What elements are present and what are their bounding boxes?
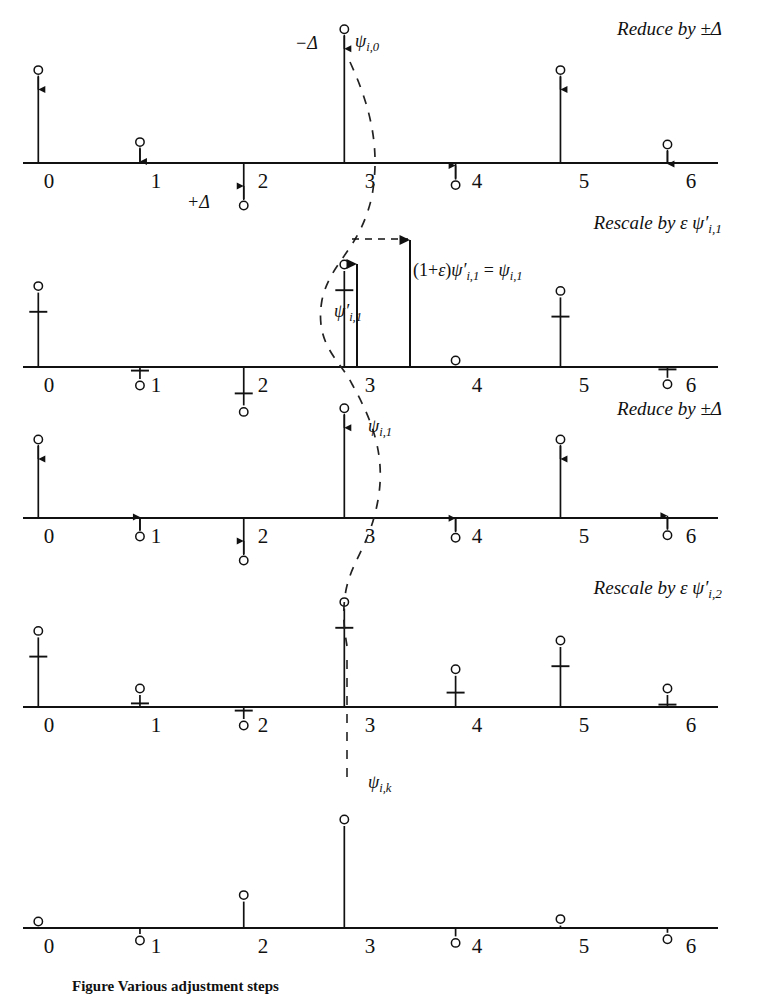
value-marker [340, 815, 348, 823]
stem-plot-canvas: 01234560123456012345601234560123456 [0, 0, 758, 1000]
axis-tick-label-3: 3 [365, 934, 376, 958]
value-marker [340, 404, 348, 412]
axis-tick-label-4: 4 [472, 524, 483, 548]
axis-tick-label-4: 4 [472, 373, 483, 397]
stem-5 [551, 287, 569, 367]
stem-0 [29, 282, 47, 367]
value-marker [663, 140, 671, 148]
axis-tick-label-4: 4 [472, 713, 483, 737]
stem-5 [556, 435, 564, 518]
panel-2-reduced-rescale: 0123456 [23, 260, 718, 416]
axis-tick-label-6: 6 [686, 524, 697, 548]
value-marker [451, 939, 459, 947]
axis-tick-label-3: 3 [365, 713, 376, 737]
stem-1 [136, 928, 144, 945]
axis-tick-label-6: 6 [686, 169, 697, 193]
value-marker [556, 287, 564, 295]
axis-tick-label-3: 3 [365, 524, 376, 548]
axis-tick-label-6: 6 [686, 934, 697, 958]
stem-6 [663, 928, 671, 944]
value-marker [663, 935, 671, 943]
psi-i-k-label: ψi,k [368, 772, 391, 796]
axis-tick-label-2: 2 [258, 713, 269, 737]
stem-6 [658, 684, 676, 707]
stem-0 [34, 66, 42, 163]
stem-1 [136, 138, 144, 163]
stem-6 [663, 140, 671, 164]
axis-tick-label-0: 0 [44, 934, 55, 958]
value-marker [451, 534, 459, 542]
value-marker [34, 282, 42, 290]
stem-0 [34, 917, 42, 925]
value-marker [451, 356, 459, 364]
stem-6 [663, 516, 671, 540]
rescale-equation-label: (1+ε)ψ′i,1 = ψi,1 [413, 260, 523, 284]
axis-tick-label-5: 5 [579, 934, 590, 958]
axis-tick-label-0: 0 [44, 524, 55, 548]
stem-2 [240, 163, 248, 210]
axis-tick-label-1: 1 [151, 934, 162, 958]
value-marker [34, 917, 42, 925]
stem-2 [240, 518, 248, 565]
operation-label-3: Reduce by ±Δ [617, 398, 722, 420]
operation-label-4: Rescale by ε ψ′i,2 [594, 577, 722, 602]
axis-tick-label-6: 6 [686, 373, 697, 397]
axis-tick-label-5: 5 [579, 373, 590, 397]
figure-caption: Figure Various adjustment steps [72, 978, 692, 995]
value-marker [556, 66, 564, 74]
axis-tick-label-4: 4 [472, 169, 483, 193]
stem-0 [34, 435, 42, 518]
plus-delta-label: +Δ [187, 192, 210, 213]
stem-2 [240, 891, 248, 928]
axis-tick-label-5: 5 [579, 713, 590, 737]
stem-3 [340, 815, 348, 928]
stem-1 [136, 517, 144, 541]
axis-tick-label-5: 5 [579, 524, 590, 548]
stem-3 [340, 25, 348, 163]
stem-5 [556, 66, 564, 163]
axis-tick-label-5: 5 [579, 169, 590, 193]
axis-tick-label-1: 1 [151, 713, 162, 737]
psi-prime-i-2-op: ψ′i,2 [692, 577, 722, 598]
value-marker [136, 936, 144, 944]
axis-tick-label-0: 0 [44, 713, 55, 737]
value-marker [663, 380, 671, 388]
stem-5 [556, 915, 564, 928]
dashed-connector [320, 62, 380, 646]
stem-2 [235, 367, 253, 416]
value-marker [240, 891, 248, 899]
value-marker [136, 381, 144, 389]
stem-4 [451, 356, 459, 364]
panel-group: 01234560123456012345601234560123456 [23, 25, 718, 958]
axis-tick-label-4: 4 [472, 934, 483, 958]
operation-label-2: Rescale by ε ψ′i,1 [594, 212, 722, 237]
value-marker [340, 260, 348, 268]
axis-tick-label-2: 2 [258, 373, 269, 397]
value-marker [340, 25, 348, 33]
value-marker [240, 201, 248, 209]
operation-label-1: Reduce by ±Δ [617, 18, 722, 40]
stem-1 [131, 684, 149, 707]
value-marker [34, 435, 42, 443]
value-marker [34, 627, 42, 635]
panel-5-converged: 0123456 [23, 815, 718, 958]
figure-root: 01234560123456012345601234560123456 Redu… [0, 0, 758, 1000]
axis-tick-label-2: 2 [258, 169, 269, 193]
value-marker [451, 181, 459, 189]
value-marker [136, 684, 144, 692]
psi-prime-i-1-label: ψ′i,1 [334, 301, 362, 325]
value-marker [34, 66, 42, 74]
value-marker [240, 408, 248, 416]
psi-i-1-label: ψi,1 [368, 416, 392, 440]
stem-4 [451, 163, 459, 189]
stem-4 [451, 928, 459, 947]
axis-tick-label-0: 0 [44, 373, 55, 397]
value-marker [451, 665, 459, 673]
stem-3 [340, 404, 348, 518]
psi-prime-i-1-op: ψ′i,1 [692, 212, 722, 233]
psi-i-0-label: ψi,0 [355, 31, 379, 55]
value-marker [136, 138, 144, 146]
stem-2 [235, 707, 253, 730]
value-marker [556, 915, 564, 923]
axis-tick-label-1: 1 [151, 373, 162, 397]
